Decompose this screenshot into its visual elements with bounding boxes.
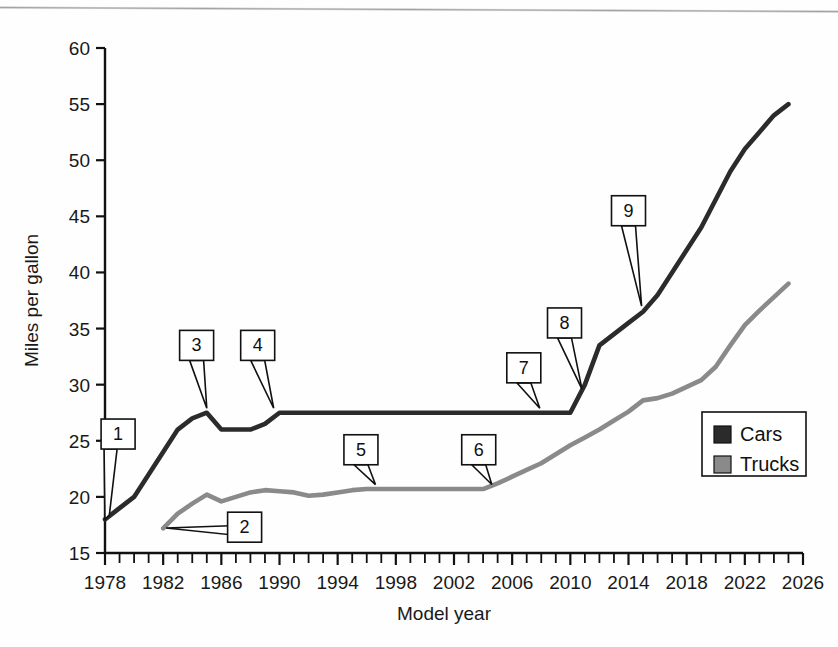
y-tick-label-60: 60	[69, 38, 90, 59]
callout-1: 1	[101, 419, 135, 519]
x-tick-label-1986: 1986	[200, 572, 242, 593]
callout-label-7: 7	[519, 358, 529, 378]
callout-3: 3	[180, 330, 214, 408]
x-tick-label-1982: 1982	[142, 572, 184, 593]
x-tick-label-1990: 1990	[258, 572, 300, 593]
callout-6: 6	[462, 435, 496, 485]
callout-label-2: 2	[240, 517, 250, 537]
legend-swatch-trucks	[714, 456, 731, 473]
callout-pointer-7	[517, 383, 540, 408]
x-tick-label-2026: 2026	[782, 572, 824, 593]
y-axis-title: Miles per gallon	[21, 234, 42, 367]
figure-root: 1520253035404550556019781982198619901994…	[0, 0, 838, 647]
x-tick-label-2018: 2018	[666, 572, 708, 593]
fuel-economy-line-chart: 1520253035404550556019781982198619901994…	[0, 0, 838, 647]
callout-label-3: 3	[192, 335, 202, 355]
y-tick-label-20: 20	[69, 487, 90, 508]
callout-7: 7	[507, 353, 541, 408]
x-tick-label-2014: 2014	[607, 572, 650, 593]
callout-5: 5	[344, 435, 378, 485]
y-tick-label-30: 30	[69, 375, 90, 396]
y-tick-label-25: 25	[69, 431, 90, 452]
legend-swatch-cars	[714, 426, 731, 443]
y-tick-label-35: 35	[69, 319, 90, 340]
callout-9: 9	[612, 196, 646, 306]
series-line-trucks	[163, 284, 788, 529]
callout-label-1: 1	[113, 424, 123, 444]
y-tick-label-50: 50	[69, 150, 90, 171]
callout-label-9: 9	[623, 201, 633, 221]
y-tick-label-55: 55	[69, 94, 90, 115]
y-tick-label-40: 40	[69, 262, 90, 283]
y-tick-label-15: 15	[69, 543, 90, 564]
callout-2: 2	[166, 512, 262, 542]
legend-label-cars: Cars	[740, 423, 782, 445]
callout-label-8: 8	[560, 313, 570, 333]
y-tick-label-45: 45	[69, 206, 90, 227]
x-tick-label-2006: 2006	[491, 572, 533, 593]
x-tick-label-2002: 2002	[433, 572, 475, 593]
series-line-cars	[105, 104, 788, 519]
x-tick-label-1978: 1978	[84, 572, 126, 593]
callout-pointer-8	[558, 338, 582, 389]
legend-label-trucks: Trucks	[740, 453, 799, 475]
callout-pointer-5	[354, 465, 376, 485]
callout-8: 8	[548, 308, 582, 389]
x-tick-label-1998: 1998	[375, 572, 417, 593]
callout-pointer-4	[251, 360, 274, 408]
callout-label-6: 6	[474, 440, 484, 460]
x-tick-label-2022: 2022	[724, 572, 766, 593]
callout-label-4: 4	[253, 335, 263, 355]
plot-area: 1520253035404550556019781982198619901994…	[21, 38, 824, 624]
x-axis-title: Model year	[397, 603, 492, 624]
callout-pointer-3	[190, 360, 207, 408]
x-tick-label-1994: 1994	[317, 572, 360, 593]
callout-pointer-6	[472, 465, 492, 485]
x-tick-label-2010: 2010	[549, 572, 591, 593]
callout-label-5: 5	[356, 440, 366, 460]
callout-pointer-9	[622, 226, 642, 306]
callout-4: 4	[241, 330, 275, 408]
